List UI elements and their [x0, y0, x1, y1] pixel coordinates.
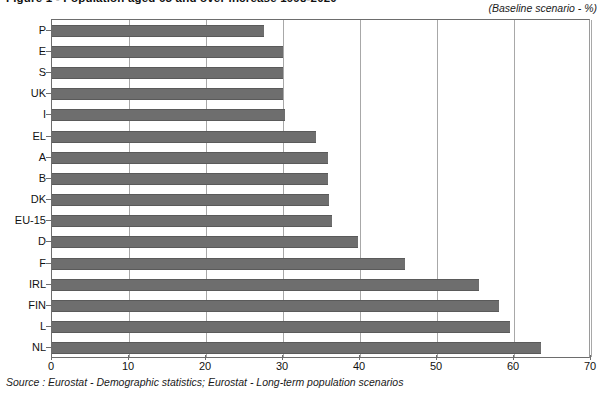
x-axis-label-0: 0 — [48, 360, 54, 372]
x-axis-label-40: 40 — [353, 360, 365, 372]
chart-bars — [52, 20, 589, 357]
bar-eu-15 — [52, 215, 332, 227]
bar-row — [52, 317, 591, 338]
bar-row — [52, 84, 591, 105]
bar-p — [52, 25, 264, 37]
bar-row — [52, 20, 591, 41]
x-axis-tick — [51, 355, 52, 360]
bar-row — [52, 126, 591, 147]
x-axis-tick — [205, 355, 206, 360]
bar-row — [52, 232, 591, 253]
bar-row — [52, 338, 591, 359]
x-axis-label-30: 30 — [276, 360, 288, 372]
x-axis-labels: 010203040506070 — [0, 360, 605, 376]
bar-el — [52, 131, 316, 143]
bar-row — [52, 295, 591, 316]
source-note: Source : Eurostat - Demographic statisti… — [6, 376, 403, 388]
bar-row — [52, 105, 591, 126]
chart-plot-area — [51, 19, 590, 358]
y-axis-label-irl: IRL — [0, 277, 46, 291]
x-axis-label-50: 50 — [430, 360, 442, 372]
bar-row — [52, 211, 591, 232]
bar-l — [52, 321, 510, 333]
y-axis-label-i: I — [0, 107, 46, 121]
y-axis-label-d: D — [0, 234, 46, 248]
bar-e — [52, 46, 283, 58]
bar-d — [52, 236, 358, 248]
x-axis-label-20: 20 — [199, 360, 211, 372]
x-axis-tick — [436, 355, 437, 360]
y-axis-label-f: F — [0, 256, 46, 270]
bar-row — [52, 41, 591, 62]
y-axis-labels: PESUKIELABDKEU-15DFIRLFINLNL — [0, 19, 46, 358]
y-axis-label-el: EL — [0, 129, 46, 143]
x-axis-tick — [282, 355, 283, 360]
bar-f — [52, 258, 405, 270]
bar-uk — [52, 88, 283, 100]
bar-row — [52, 253, 591, 274]
bar-row — [52, 147, 591, 168]
y-axis-label-b: B — [0, 171, 46, 185]
bar-row — [52, 190, 591, 211]
x-axis-label-70: 70 — [584, 360, 596, 372]
y-axis-label-a: A — [0, 150, 46, 164]
y-axis-label-s: S — [0, 65, 46, 79]
y-axis-label-e: E — [0, 44, 46, 58]
x-axis-label-60: 60 — [507, 360, 519, 372]
bar-s — [52, 67, 283, 79]
y-axis-label-uk: UK — [0, 86, 46, 100]
x-axis-tick — [513, 355, 514, 360]
gridline — [591, 20, 592, 357]
bar-fin — [52, 300, 499, 312]
x-axis-tick — [128, 355, 129, 360]
baseline-scenario-caption: (Baseline scenario - %) — [488, 2, 597, 14]
bar-row — [52, 62, 591, 83]
x-axis-tick — [359, 355, 360, 360]
y-axis-label-fin: FIN — [0, 298, 46, 312]
y-axis-label-p: P — [0, 23, 46, 37]
bar-nl — [52, 342, 541, 354]
bar-row — [52, 168, 591, 189]
bar-irl — [52, 279, 479, 291]
bar-b — [52, 173, 328, 185]
bar-row — [52, 274, 591, 295]
bar-i — [52, 109, 285, 121]
y-axis-label-dk: DK — [0, 192, 46, 206]
page-title: Figure 1 - Population aged 65 and over i… — [6, 0, 337, 4]
bar-a — [52, 152, 328, 164]
x-axis-tick — [590, 355, 591, 360]
y-axis-label-nl: NL — [0, 340, 46, 354]
y-axis-label-l: L — [0, 319, 46, 333]
x-axis-label-10: 10 — [122, 360, 134, 372]
y-axis-label-eu-15: EU-15 — [0, 213, 46, 227]
bar-dk — [52, 194, 329, 206]
